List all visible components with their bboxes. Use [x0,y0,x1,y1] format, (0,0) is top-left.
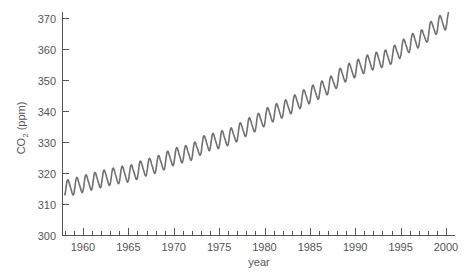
y-tick-label: 370 [38,13,56,25]
co2-line-chart: 300310320330340350360370 196019651970197… [0,0,475,279]
x-axis-label: year [248,256,270,268]
y-axis-label-main: CO [15,137,27,154]
y-axis-label-unit: (ppm) [15,102,27,134]
x-tick-label: 1970 [162,241,186,253]
y-tick-label: 310 [38,199,56,211]
y-tick-label: 300 [38,230,56,242]
y-tick-label: 340 [38,106,56,118]
x-tick-label: 1985 [298,241,322,253]
y-axis: 300310320330340350360370 [38,12,69,242]
x-tick-label: 1975 [207,241,231,253]
y-tick-label: 320 [38,168,56,180]
y-tick-label: 360 [38,44,56,56]
y-tick-label: 330 [38,137,56,149]
x-tick-label: 1990 [343,241,367,253]
x-tick-label: 1965 [116,241,140,253]
y-axis-label: CO2 (ppm) [15,102,30,155]
x-tick-label: 2000 [434,241,458,253]
x-tick-label: 1980 [252,241,276,253]
x-axis: 196019651970197519801985199019952000 [62,228,458,253]
co2-series-line [65,12,449,195]
x-tick-label: 1960 [71,241,95,253]
x-tick-label: 1995 [388,241,412,253]
y-tick-label: 350 [38,75,56,87]
